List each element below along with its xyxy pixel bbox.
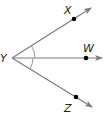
ray-yx — [12, 8, 91, 58]
label-y: Y — [0, 52, 8, 65]
diagram-canvas: Y X W Z — [0, 0, 107, 118]
point-z — [74, 95, 79, 100]
angle-diagram: Y X W Z — [0, 0, 107, 118]
angle-arc-xyw — [31, 46, 35, 58]
ray-yz — [12, 58, 92, 107]
label-z: Z — [63, 102, 72, 115]
point-x — [72, 17, 77, 22]
label-w: W — [83, 42, 95, 55]
angle-arc-wyz — [30, 58, 33, 69]
point-w — [84, 56, 89, 61]
label-x: X — [63, 4, 72, 17]
